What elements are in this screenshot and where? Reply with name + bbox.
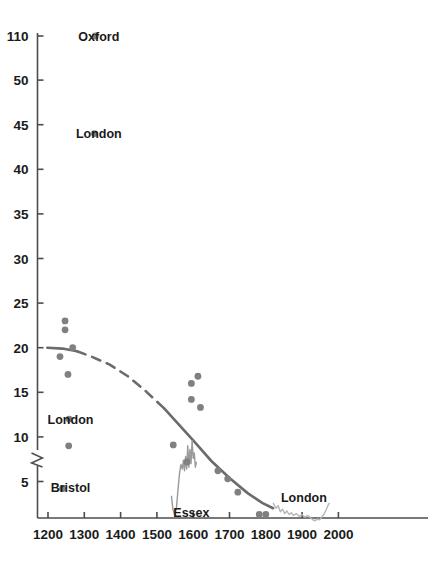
trend-line-dashed-segment — [77, 351, 164, 408]
annotation-london-1: London — [76, 127, 122, 141]
chart-container: 5101520253035404550110 12001300140015001… — [0, 0, 434, 561]
data-point — [256, 511, 263, 518]
x-tick-label-1600: 1600 — [178, 527, 208, 542]
data-point — [188, 380, 195, 387]
y-tick-label-35: 35 — [13, 207, 29, 222]
data-point — [170, 442, 177, 449]
x-axis-tick-labels: 120013001400150016001700180019002000 — [33, 527, 353, 542]
chart-plot: 5101520253035404550110 12001300140015001… — [0, 0, 434, 561]
annotation-essex-4: Essex — [173, 506, 209, 520]
y-tick-label-45: 45 — [13, 118, 29, 133]
data-point — [57, 353, 64, 360]
data-point — [62, 318, 69, 325]
annotation-oxford-0: Oxford — [78, 30, 119, 44]
y-tick-label-20: 20 — [13, 341, 28, 356]
y-axis-ticks — [38, 36, 44, 482]
axis-break-icon — [32, 453, 43, 467]
data-point — [62, 326, 69, 333]
x-tick-label-1900: 1900 — [287, 527, 317, 542]
y-tick-label-110: 110 — [7, 29, 29, 44]
data-point — [224, 475, 231, 482]
y-tick-label-40: 40 — [13, 162, 28, 177]
y-tick-label-10: 10 — [13, 430, 28, 445]
x-tick-label-1400: 1400 — [106, 527, 136, 542]
x-tick-label-1500: 1500 — [142, 527, 172, 542]
y-tick-label-25: 25 — [13, 296, 29, 311]
x-tick-label-2000: 2000 — [323, 527, 353, 542]
x-tick-label-1800: 1800 — [251, 527, 281, 542]
data-point — [69, 344, 76, 351]
trend-line-late-segment — [164, 408, 273, 508]
annotation-bristol-3: Bristol — [51, 481, 91, 495]
data-point — [65, 371, 72, 378]
annotation-london-2: London — [48, 413, 94, 427]
essex-series-line — [171, 440, 196, 515]
scatter-data-points — [57, 33, 270, 518]
data-point — [195, 373, 202, 380]
data-point — [262, 511, 269, 518]
data-point — [197, 404, 204, 411]
annotation-london-5: London — [281, 491, 327, 505]
data-point — [214, 467, 221, 474]
data-point — [234, 489, 241, 496]
y-tick-label-15: 15 — [13, 385, 29, 400]
x-tick-label-1200: 1200 — [33, 527, 63, 542]
x-tick-label-1700: 1700 — [214, 527, 244, 542]
x-tick-label-1300: 1300 — [69, 527, 99, 542]
y-tick-label-30: 30 — [13, 252, 28, 267]
data-point — [65, 442, 72, 449]
data-point — [184, 458, 191, 465]
y-tick-label-50: 50 — [13, 73, 28, 88]
y-axis-tick-labels: 5101520253035404550110 — [7, 29, 29, 490]
y-tick-label-5: 5 — [21, 475, 29, 490]
data-point — [188, 396, 195, 403]
